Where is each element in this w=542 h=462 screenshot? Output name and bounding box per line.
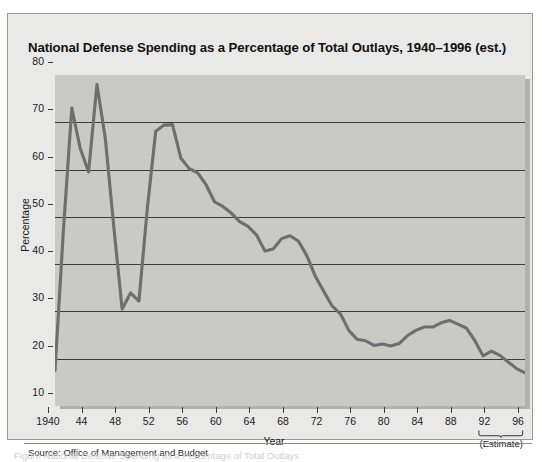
y-tick-mark (48, 62, 53, 63)
y-tick-label: 60 (16, 150, 44, 162)
x-tick-label: 80 (378, 415, 390, 427)
x-tick-mark (384, 407, 385, 413)
y-tick-mark (48, 393, 53, 394)
x-tick-label: 64 (244, 415, 256, 427)
x-tick-mark (283, 407, 284, 413)
y-tick-label: 20 (16, 339, 44, 351)
x-tick-mark (182, 407, 183, 413)
x-tick-label: 92 (479, 415, 491, 427)
figure-container: National Defense Spending as a Percentag… (0, 0, 542, 462)
y-tick-mark (48, 157, 53, 158)
y-tick-label: 80 (16, 55, 44, 67)
estimate-bracket-icon (478, 430, 524, 438)
y-tick-label: 10 (16, 386, 44, 398)
plot-area (55, 75, 525, 406)
x-tick-label: 1940 (36, 415, 59, 427)
chart-svg (55, 75, 525, 406)
x-tick-mark (115, 407, 116, 413)
y-tick-label: 50 (16, 197, 44, 209)
x-tick-mark (82, 407, 83, 413)
x-tick-mark (484, 407, 485, 413)
y-tick-mark (48, 204, 53, 205)
y-tick-label: 40 (16, 244, 44, 256)
x-tick-label: 72 (311, 415, 323, 427)
x-tick-label: 56 (176, 415, 188, 427)
chart-title: National Defense Spending as a Percentag… (28, 40, 533, 55)
x-tick-label: 96 (512, 415, 524, 427)
x-tick-mark (249, 407, 250, 413)
source-divider (24, 443, 532, 444)
x-tick-label: 60 (210, 415, 222, 427)
y-tick-label: 30 (16, 291, 44, 303)
data-line-defense-spending (55, 84, 525, 372)
y-tick-mark (48, 109, 53, 110)
x-tick-label: 68 (277, 415, 289, 427)
x-axis-label: Year (263, 435, 284, 447)
x-tick-mark (149, 407, 150, 413)
y-tick-mark (48, 346, 53, 347)
chart-panel: National Defense Spending as a Percentag… (7, 13, 533, 440)
x-tick-label: 48 (109, 415, 121, 427)
figure-caption: Figure National Defense Spending as a Pe… (0, 450, 542, 462)
x-tick-mark (451, 407, 452, 413)
x-tick-label: 44 (76, 415, 88, 427)
x-tick-label: 52 (143, 415, 155, 427)
y-tick-label: 70 (16, 102, 44, 114)
x-tick-label: 88 (445, 415, 457, 427)
x-tick-mark (48, 407, 49, 413)
x-tick-mark (350, 407, 351, 413)
x-tick-label: 84 (411, 415, 423, 427)
x-tick-mark (317, 407, 318, 413)
x-tick-mark (518, 407, 519, 413)
y-tick-mark (48, 298, 53, 299)
x-tick-mark (216, 407, 217, 413)
x-tick-mark (417, 407, 418, 413)
x-tick-label: 76 (344, 415, 356, 427)
y-tick-mark (48, 251, 53, 252)
